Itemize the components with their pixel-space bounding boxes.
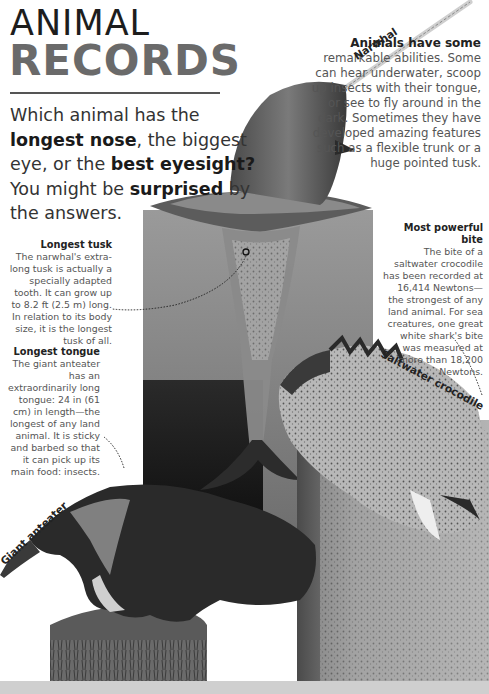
intro-text: Which animal has the <box>10 105 200 125</box>
intro-sidebar-heading: Animals have some <box>311 36 481 51</box>
intro-bold: surprised <box>130 179 223 199</box>
intro-text: You might be <box>10 179 130 199</box>
fact-longest-tusk: Longest tusk The narwhal's extra-long tu… <box>4 239 112 347</box>
fact-body: The giant anteater has an extraordinaril… <box>4 358 100 478</box>
fact-longest-tongue: Longest tongue The giant anteater has an… <box>4 346 100 478</box>
fact-heading: Most powerful bite <box>379 222 483 246</box>
water-column <box>143 192 373 550</box>
intro-sidebar: Animals have some remarkable abilities. … <box>311 36 481 171</box>
fact-body: The narwhal's extra-long tusk is actuall… <box>4 251 112 347</box>
floor-band <box>0 681 489 694</box>
label-giant-anteater: Giant anteater <box>0 499 69 567</box>
intro-bold: best eyesight? <box>111 154 255 174</box>
intro-sidebar-body: remarkable abilities. Some can hear unde… <box>311 51 481 171</box>
intro-paragraph: Which animal has the longest nose, the b… <box>10 103 260 226</box>
title-divider <box>10 92 220 94</box>
fact-heading: Longest tusk <box>4 239 112 251</box>
intro-bold: longest nose <box>10 130 137 150</box>
title-line-2: RECORDS <box>9 40 241 82</box>
fact-heading: Longest tongue <box>4 346 100 358</box>
